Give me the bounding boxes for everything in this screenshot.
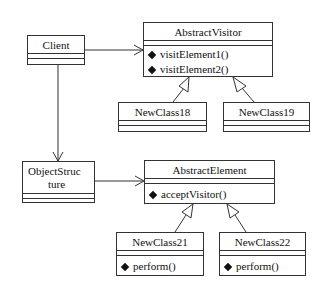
attributes-compartment <box>23 194 94 199</box>
class-new-class-18[interactable]: NewClass18 <box>118 102 207 132</box>
triangle-head <box>182 204 193 218</box>
generalization-newclass18 <box>173 88 184 102</box>
class-object-structure[interactable]: ObjectStruc ture <box>22 161 95 203</box>
class-abstract-visitor[interactable]: AbstractVisitor visitElement1() visitEle… <box>143 22 273 77</box>
class-abstract-element[interactable]: AbstractElement acceptVisitor() <box>144 160 275 204</box>
attributes-compartment <box>119 121 206 126</box>
class-new-class-22[interactable]: NewClass22 perform() <box>219 232 306 276</box>
generalization-newclass19 <box>242 88 254 102</box>
generalization-newclass21 <box>175 215 186 232</box>
class-name: NewClass22 <box>220 233 305 251</box>
operation-diamond-icon <box>121 262 129 270</box>
class-new-class-21[interactable]: NewClass21 perform() <box>116 232 204 276</box>
generalization-newclass22 <box>235 215 246 232</box>
class-client[interactable]: Client <box>27 35 85 65</box>
class-name: NewClass21 <box>117 233 203 251</box>
attributes-compartment <box>224 121 309 126</box>
class-name: ObjectStruc ture <box>23 162 94 194</box>
operations-compartment: visitElement1() visitElement2() <box>144 46 272 78</box>
class-name: NewClass18 <box>119 103 206 121</box>
class-name: NewClass19 <box>224 103 309 121</box>
operation: perform() <box>120 259 203 274</box>
operation-label: perform() <box>133 259 176 274</box>
class-name: Client <box>28 36 84 54</box>
class-name-line2: ture <box>28 178 94 191</box>
class-name: AbstractElement <box>145 161 274 179</box>
attributes-compartment <box>28 54 84 59</box>
operation: visitElement2() <box>147 62 272 77</box>
operations-compartment: perform() <box>220 256 305 275</box>
operation-diamond-icon <box>224 262 232 270</box>
operation-diamond-icon <box>148 65 156 73</box>
triangle-head <box>227 204 239 218</box>
operation-diamond-icon <box>148 50 156 58</box>
operation: visitElement1() <box>147 47 272 62</box>
operations-compartment: perform() <box>117 256 203 275</box>
class-new-class-19[interactable]: NewClass19 <box>223 102 310 132</box>
class-name-line1: ObjectStruc <box>28 165 94 178</box>
operation-label: visitElement2() <box>160 62 228 77</box>
triangle-head <box>179 77 189 92</box>
operation-label: acceptVisitor() <box>161 187 226 202</box>
operation: acceptVisitor() <box>148 187 274 202</box>
operation-label: visitElement1() <box>160 47 228 62</box>
operation: perform() <box>223 259 305 274</box>
operations-compartment: acceptVisitor() <box>145 184 274 203</box>
operation-label: perform() <box>236 259 279 274</box>
class-name: AbstractVisitor <box>144 23 272 41</box>
operation-diamond-icon <box>149 190 157 198</box>
